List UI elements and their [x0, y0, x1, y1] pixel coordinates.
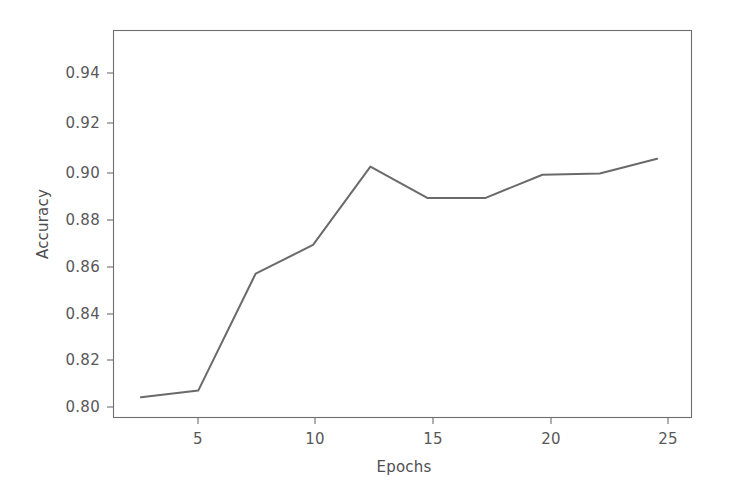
y-tick-label: 0.92: [65, 114, 100, 132]
figure-canvas: 0.94 0.92 0.90 0.88 0.86 0.84 0.82 0.80 …: [0, 0, 734, 501]
data-series-group: [141, 159, 657, 398]
x-tick-label: 5: [193, 430, 203, 448]
accuracy-line: [141, 159, 657, 398]
line-chart: 0.94 0.92 0.90 0.88 0.86 0.84 0.82 0.80 …: [0, 0, 734, 501]
y-tick-label: 0.80: [65, 398, 100, 416]
x-tickmarks: [198, 418, 668, 425]
x-tick-label: 25: [658, 430, 678, 448]
y-tick-label: 0.86: [65, 258, 100, 276]
x-tick-label: 15: [423, 430, 443, 448]
y-tick-label: 0.88: [65, 211, 100, 229]
y-tick-label: 0.84: [65, 305, 100, 323]
x-axis-title: Epochs: [377, 458, 432, 476]
x-tick-label: 10: [305, 430, 325, 448]
y-axis-title: Accuracy: [34, 189, 52, 259]
y-tick-labels: 0.94 0.92 0.90 0.88 0.86 0.84 0.82 0.80: [65, 64, 100, 416]
x-tick-labels: 5 10 15 20 25: [193, 430, 678, 448]
y-tick-label: 0.94: [65, 64, 100, 82]
y-tickmarks: [107, 73, 114, 407]
y-tick-label: 0.82: [65, 351, 100, 369]
plot-frame: [114, 31, 692, 418]
x-tick-label: 20: [541, 430, 561, 448]
y-tick-label: 0.90: [65, 164, 100, 182]
